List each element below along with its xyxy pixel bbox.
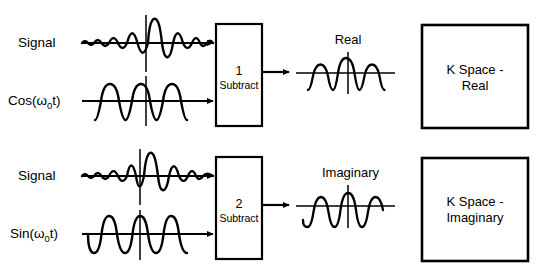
imaginary-output-label: Imaginary [303,166,398,181]
subtract-box-1-number: 1 [216,64,262,78]
cos-label-tail: t) [52,93,60,108]
sin-label-base: Sin(ω [10,226,45,241]
kspace-imaginary-line2: Imaginary [446,210,503,225]
kspace-real-line2: Real [462,78,489,93]
signal-label-row2: Signal [18,168,56,184]
kspace-real-label: K Space -Real [422,62,528,95]
sin-label-tail: t) [50,226,58,241]
mri-demodulation-diagram: Signal Cos(ω0t) 1 Subtract Real K Space … [0,0,536,269]
signal-waveform-row1 [82,19,213,57]
signal-waveform-row2 [82,153,213,191]
real-output-label: Real [308,33,388,48]
kspace-imaginary-line1: K Space - [446,194,503,209]
subtract-box-2-operation: Subtract [214,212,264,224]
subtract-box-1-operation: Subtract [214,79,264,91]
subtract-box-2-number: 2 [216,197,262,211]
signal-label-row1: Signal [18,35,56,51]
cos-reference-label: Cos(ω0t) [8,93,61,112]
kspace-imaginary-label: K Space -Imaginary [422,194,528,227]
cos-label-base: Cos(ω [8,93,47,108]
real-output-waveform [308,58,385,90]
diagram-canvas [0,0,536,269]
sin-reference-label: Sin(ω0t) [10,226,58,245]
imaginary-output-waveform [303,193,383,227]
kspace-real-line1: K Space - [446,62,503,77]
